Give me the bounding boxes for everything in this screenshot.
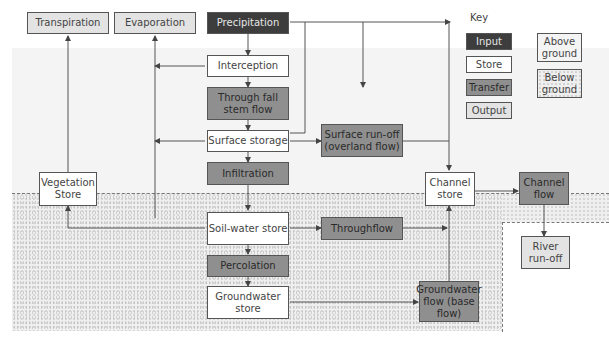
node-label: Throughflow xyxy=(331,223,393,235)
node-channel-flow: Channel flow xyxy=(519,172,569,205)
node-label: Precipitation xyxy=(217,17,280,29)
node-label: Through fall stem flow xyxy=(208,92,288,116)
node-river-runoff: River run-off xyxy=(521,236,570,269)
node-surface-storage: Surface storage xyxy=(207,130,289,152)
node-precipitation: Precipitation xyxy=(207,12,289,34)
node-label: Evaporation xyxy=(125,17,185,29)
node-label: Channel store xyxy=(426,177,474,201)
node-label: Groundwater store xyxy=(208,291,288,315)
node-infiltration: Infiltration xyxy=(207,162,289,185)
node-label: Infiltration xyxy=(222,168,274,180)
key-above-ground: Above ground xyxy=(537,33,582,62)
node-label: Channel flow xyxy=(520,177,568,201)
node-label: River run-off xyxy=(522,241,569,265)
key-input: Input xyxy=(466,33,512,50)
node-label: Interception xyxy=(218,60,278,72)
node-transpiration: Transpiration xyxy=(27,12,109,34)
node-vegetation-store: Vegetation Store xyxy=(39,172,97,206)
key-store: Store xyxy=(466,56,512,73)
key-label: Above ground xyxy=(538,36,581,60)
node-throughflow: Throughflow xyxy=(321,217,403,240)
key-output: Output xyxy=(466,102,512,119)
node-surface-runoff: Surface run-off (overland flow) xyxy=(321,124,403,157)
key-title: Key xyxy=(470,12,488,23)
key-label: Below ground xyxy=(538,72,581,96)
node-label: Percolation xyxy=(220,260,275,272)
key-label: Transfer xyxy=(469,82,509,94)
node-through-fall: Through fall stem flow xyxy=(207,87,289,120)
node-evaporation: Evaporation xyxy=(114,12,196,34)
node-label: Vegetation Store xyxy=(40,177,96,201)
node-label: Surface storage xyxy=(208,135,287,147)
node-channel-store: Channel store xyxy=(425,172,475,206)
node-interception: Interception xyxy=(207,55,289,77)
flow-arrows xyxy=(0,0,609,341)
node-soil-water-store: Soil-water store xyxy=(207,212,289,245)
node-label: Groundwater flow (base flow) xyxy=(416,284,481,320)
key-label: Store xyxy=(476,59,502,71)
key-transfer: Transfer xyxy=(466,79,512,96)
node-percolation: Percolation xyxy=(207,255,289,277)
node-label: Soil-water store xyxy=(209,223,288,235)
node-groundwater-flow: Groundwater flow (base flow) xyxy=(419,281,479,322)
key-below-ground: Below ground xyxy=(537,69,582,98)
key-label: Output xyxy=(472,105,507,117)
node-label: Surface run-off (overland flow) xyxy=(322,129,402,153)
node-label: Transpiration xyxy=(36,17,101,29)
node-groundwater-store: Groundwater store xyxy=(207,286,289,319)
key-label: Input xyxy=(476,36,502,48)
